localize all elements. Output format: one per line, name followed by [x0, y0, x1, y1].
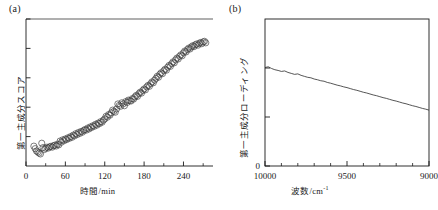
- panel-b-x-axis-title: 波数/cm-1: [291, 184, 329, 196]
- panel-a-x-tick-label: 180: [137, 171, 151, 181]
- data-point: [39, 140, 45, 146]
- panel-b-axis-frame: [265, 19, 429, 166]
- panel-b: (b) 10000950090000 波数/cm-1 第一主成分ローディング: [219, 0, 438, 210]
- panel-a-x-tick-label: 240: [177, 171, 191, 181]
- panel-a-x-tick-label: 120: [98, 171, 112, 181]
- panel-a-x-axis-title: 時間/min: [80, 184, 115, 196]
- panel-a: (a) 060120180240 時間/min 第一主成分スコア: [0, 0, 219, 210]
- panel-b-plot: 10000950090000: [219, 0, 438, 210]
- panel-b-x-tick-label: 10000: [254, 171, 277, 181]
- panel-a-x-tick-label: 0: [24, 171, 29, 181]
- figure-container: (a) 060120180240 時間/min 第一主成分スコア (b) 100…: [0, 0, 438, 210]
- panel-b-x-axis-title-main: 波数/cm: [291, 186, 323, 196]
- panel-b-x-tick-label: 9500: [338, 171, 357, 181]
- panel-a-y-axis-title: 第一主成分スコア: [14, 76, 26, 150]
- panel-b-x-axis-title-superscript: -1: [323, 185, 329, 191]
- panel-b-loading-curve: [265, 67, 429, 110]
- panel-a-plot: 060120180240: [0, 0, 219, 210]
- panel-b-x-tick-label: 9000: [420, 171, 438, 181]
- panel-b-y-tick-label: 0: [256, 161, 261, 171]
- panel-b-y-axis-title: 第一主成分ローディング: [237, 57, 249, 158]
- panel-a-scatter-series: [31, 38, 209, 157]
- panel-a-x-tick-label: 60: [61, 171, 71, 181]
